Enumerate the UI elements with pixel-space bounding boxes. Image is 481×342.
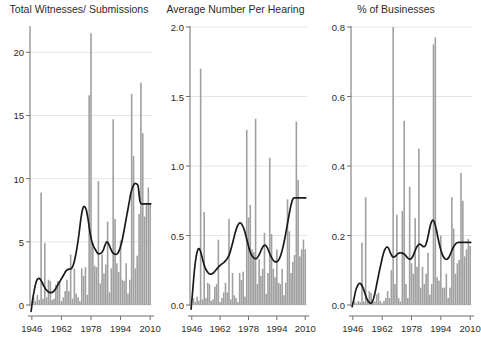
bar — [447, 298, 449, 305]
bar — [442, 288, 444, 305]
bar — [391, 270, 393, 305]
bar — [274, 277, 276, 305]
bar — [278, 283, 280, 305]
bar — [212, 299, 214, 305]
bar — [242, 272, 244, 305]
bar — [363, 302, 365, 305]
chart-panel-0: Total Witnesses/ Submissions051015201946… — [0, 0, 158, 342]
x-tick-label: 2010 — [460, 323, 481, 334]
bar — [196, 297, 198, 305]
bar — [396, 215, 398, 305]
bar — [74, 268, 76, 305]
bar — [262, 269, 264, 305]
bar — [83, 276, 85, 305]
bar — [214, 287, 216, 305]
bar — [460, 173, 462, 305]
y-tick-label: 0.0 — [313, 300, 345, 311]
chart-panel-1: Average Number Per Hearing0.00.51.01.52.… — [158, 0, 313, 342]
bar — [40, 193, 42, 305]
bar — [90, 33, 92, 305]
bar — [88, 95, 90, 305]
bar — [402, 211, 404, 305]
bar — [248, 217, 250, 305]
bar — [53, 299, 55, 305]
bar — [376, 295, 378, 305]
bar — [303, 240, 305, 305]
bar — [257, 284, 259, 305]
bar — [105, 265, 107, 305]
bar — [133, 156, 135, 305]
bar — [44, 243, 46, 305]
bar — [98, 181, 100, 305]
bar — [116, 263, 118, 305]
bar — [51, 300, 53, 305]
bar — [46, 297, 48, 305]
bar — [273, 269, 275, 305]
bar — [148, 187, 150, 305]
bar — [216, 284, 218, 305]
bar — [420, 288, 422, 305]
y-tick-label: 10 — [0, 173, 24, 184]
bar — [281, 269, 283, 305]
bar — [365, 197, 367, 305]
bar — [427, 253, 429, 305]
bar — [96, 267, 98, 305]
bar — [446, 274, 448, 305]
bar — [244, 297, 246, 305]
bar — [469, 246, 471, 305]
bar — [438, 281, 440, 305]
y-tick-label: 0 — [0, 300, 24, 311]
bar — [398, 298, 400, 305]
bar — [234, 295, 236, 305]
bar — [38, 300, 40, 305]
bar — [138, 214, 140, 305]
bar — [361, 242, 363, 305]
bar — [85, 267, 87, 305]
y-tick-label: 0.6 — [313, 91, 345, 102]
bar — [107, 222, 109, 305]
bar — [101, 254, 103, 305]
bar — [127, 294, 129, 305]
bar — [193, 298, 195, 305]
chart-panel-2: % of Businesses0.00.20.40.60.81946196219… — [313, 0, 479, 342]
bar — [403, 121, 405, 305]
bar — [72, 299, 74, 305]
bar — [435, 37, 437, 305]
bar — [468, 239, 470, 305]
bar — [288, 231, 290, 305]
x-tick-label: 1962 — [51, 323, 72, 334]
bar — [267, 273, 269, 305]
bar — [414, 218, 416, 305]
x-tick-label: 1994 — [430, 323, 451, 334]
bar — [232, 273, 234, 305]
y-tick-label: 1.5 — [158, 91, 184, 102]
bar — [436, 277, 438, 305]
bar — [411, 263, 413, 305]
bar — [223, 292, 225, 305]
bar — [253, 252, 255, 305]
bar — [374, 302, 376, 305]
bar — [205, 298, 207, 305]
bar — [77, 297, 79, 305]
bar — [135, 268, 137, 305]
y-tick-label: 0.5 — [158, 230, 184, 241]
bar — [225, 283, 227, 305]
bar — [149, 204, 151, 305]
bar — [255, 119, 257, 305]
bar — [207, 283, 209, 305]
y-tick-label: 2.0 — [158, 22, 184, 33]
bar — [61, 301, 63, 305]
bar — [380, 301, 382, 305]
bar — [418, 149, 420, 305]
x-tick-label: 1994 — [110, 323, 131, 334]
bar — [301, 249, 303, 305]
bar — [200, 69, 202, 305]
bar — [296, 122, 298, 305]
bar — [466, 249, 468, 305]
bar — [35, 301, 37, 305]
bar — [94, 266, 96, 305]
bar — [235, 298, 237, 305]
bar — [198, 301, 200, 305]
bar — [62, 297, 64, 305]
bar — [203, 212, 205, 305]
